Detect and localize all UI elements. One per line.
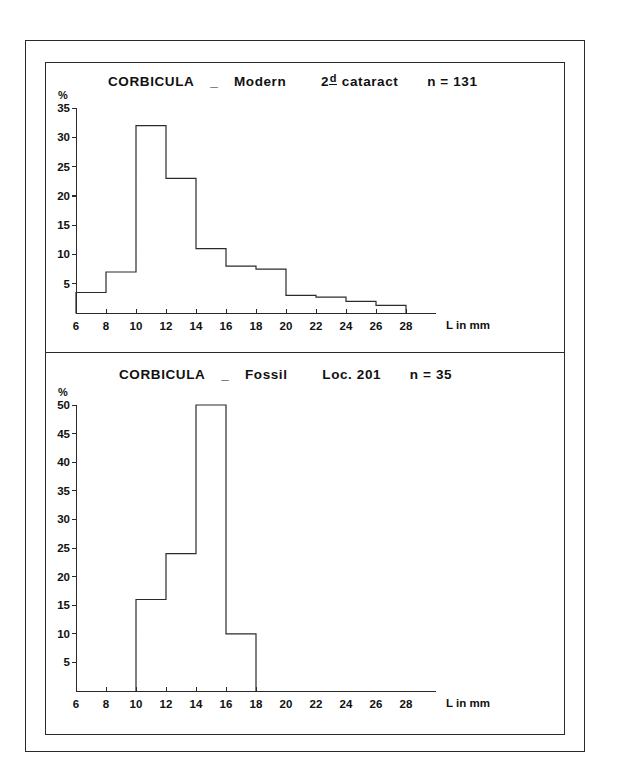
chart-panel-fossil: CORBICULA _ Fossil Loc. 201 n = 35 %5101…: [46, 353, 564, 735]
histogram-outline: [46, 353, 564, 735]
figure-root: CORBICULA _ Modern 2d cataract n = 131 %…: [0, 0, 617, 780]
plot-area-fossil: %510152025303540455068101214161820222426…: [46, 353, 564, 735]
plot-area-modern: %51015202530356810121416182022242628L in…: [46, 63, 564, 352]
chart-panel-modern: CORBICULA _ Modern 2d cataract n = 131 %…: [46, 63, 564, 352]
histogram-outline: [46, 63, 564, 352]
